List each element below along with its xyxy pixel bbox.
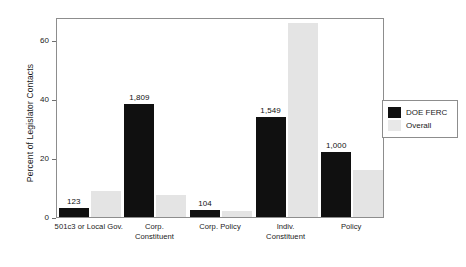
legend-label: Overall <box>406 121 431 130</box>
bar-group: 1,000 <box>57 19 385 217</box>
bar-overall <box>353 170 383 217</box>
legend-color-swatch <box>388 120 401 131</box>
y-tick-label: 0 <box>45 213 49 222</box>
y-tick-label: 60 <box>40 36 49 45</box>
plot-inner: 1231,8091041,5491,000 <box>57 19 383 217</box>
plot-area: 1231,8091041,5491,000 <box>56 18 384 218</box>
bar-value-label: 1,000 <box>313 141 359 150</box>
x-category-label: Policy <box>291 222 411 232</box>
legend-item[interactable]: Overall <box>388 119 452 132</box>
legend-color-swatch <box>388 107 401 118</box>
legend-label: DOE FERC <box>406 108 447 117</box>
legend-item[interactable]: DOE FERC <box>388 106 452 119</box>
y-tick-label: 40 <box>40 95 49 104</box>
bar-chart-figure: Percent of Legislator Contacts 0204060 1… <box>0 0 466 267</box>
y-tick-label: 20 <box>40 154 49 163</box>
chart-legend: DOE FERCOverall <box>382 100 458 138</box>
bar-doe-ferc <box>321 152 351 217</box>
y-axis-title: Percent of Legislator Contacts <box>25 23 35 223</box>
